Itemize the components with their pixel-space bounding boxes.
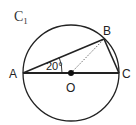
geometry-diagram: C1 20° A B C O [0, 0, 136, 125]
center-point [68, 70, 74, 76]
angle-label: 20° [46, 60, 63, 72]
point-label-c: C [122, 67, 131, 81]
chord-ab [23, 39, 104, 73]
radius-ob-dotted [71, 39, 104, 73]
circle-title: C1 [14, 9, 28, 26]
point-label-b: B [103, 24, 111, 38]
chord-bc [104, 39, 119, 73]
point-label-o: O [66, 81, 75, 95]
point-label-a: A [9, 67, 17, 81]
